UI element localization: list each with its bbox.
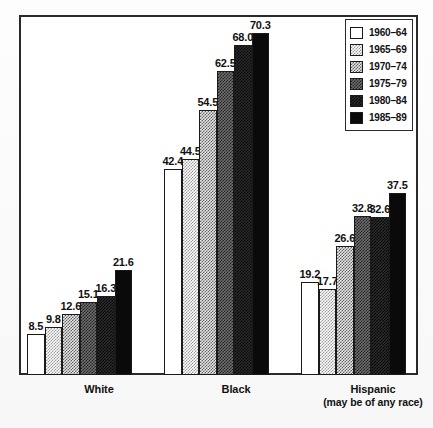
bar-value-label: 54.5 xyxy=(197,96,218,108)
bar-slot: 19.2 xyxy=(301,17,319,375)
legend-swatch-icon xyxy=(350,95,363,107)
bar-white-1970-74: 12.6 xyxy=(62,314,80,375)
bar-slot: 16.3 xyxy=(97,17,115,375)
bar-group-bars: 42.444.554.562.568.070.3 xyxy=(164,17,269,375)
bar-value-label: 26.6 xyxy=(334,232,355,244)
category-label-white: White xyxy=(29,383,169,396)
bar-slot: 68.0 xyxy=(234,17,252,375)
legend-item-label: 1985–89 xyxy=(369,112,407,123)
legend-item-1980-84: 1980–84 xyxy=(350,92,409,109)
legend-swatch-icon xyxy=(350,44,363,56)
bar-value-label: 12.6 xyxy=(60,300,81,312)
legend-item-label: 1965–69 xyxy=(369,44,407,55)
bar-value-label: 42.4 xyxy=(162,155,183,167)
category-label-text: Hispanic xyxy=(303,383,433,396)
bar-value-label: 16.3 xyxy=(95,282,116,294)
legend-item-1975-79: 1975–79 xyxy=(350,75,409,92)
bar-value-label: 17.7 xyxy=(317,275,338,287)
bar-slot: 12.6 xyxy=(62,17,80,375)
bar-slot: 15.1 xyxy=(80,17,98,375)
legend-item-1965-69: 1965–69 xyxy=(350,41,409,58)
bar-slot: 21.6 xyxy=(115,17,133,375)
bar-value-label: 32.6 xyxy=(369,203,390,215)
legend-swatch-icon xyxy=(350,27,363,39)
bar-black-1960-64: 42.4 xyxy=(164,169,182,375)
legend-item-1970-74: 1970–74 xyxy=(350,58,409,75)
bar-value-label: 21.6 xyxy=(113,256,134,268)
bar-white-1965-69: 9.8 xyxy=(45,327,63,375)
bar-value-label: 8.5 xyxy=(28,320,43,332)
bar-black-1985-89: 70.3 xyxy=(252,33,270,375)
bar-hispanic-1970-74: 26.6 xyxy=(336,246,354,375)
legend-item-label: 1975–79 xyxy=(369,78,407,89)
bar-value-label: 9.8 xyxy=(46,313,61,325)
bar-value-label: 70.3 xyxy=(250,19,271,31)
bar-slot: 54.5 xyxy=(199,17,217,375)
bar-slot: 17.7 xyxy=(319,17,337,375)
bar-slot: 44.5 xyxy=(182,17,200,375)
legend-swatch-icon xyxy=(350,61,363,73)
category-label-black: Black xyxy=(166,383,306,396)
bar-white-1960-64: 8.5 xyxy=(27,334,45,375)
chart-legend: 1960–641965–691970–741975–791980–841985–… xyxy=(345,19,413,131)
legend-item-label: 1980–84 xyxy=(369,95,407,106)
bar-value-label: 37.5 xyxy=(387,179,408,191)
bar-black-1965-69: 44.5 xyxy=(182,159,200,375)
category-sublabel-text: (may be of any race) xyxy=(303,396,433,409)
bar-value-label: 44.5 xyxy=(180,145,201,157)
bar-group-bars: 8.59.812.615.116.321.6 xyxy=(27,17,132,375)
bar-white-1980-84: 16.3 xyxy=(97,296,115,375)
bar-slot: 9.8 xyxy=(45,17,63,375)
category-label-text: White xyxy=(29,383,169,396)
legend-item-1985-89: 1985–89 xyxy=(350,109,409,126)
legend-item-label: 1970–74 xyxy=(369,61,407,72)
bar-white-1985-89: 21.6 xyxy=(115,270,133,375)
category-label-text: Black xyxy=(166,383,306,396)
legend-item-1960-64: 1960–64 xyxy=(350,24,409,41)
bar-hispanic-1985-89: 37.5 xyxy=(389,193,407,375)
bar-black-1975-79: 62.5 xyxy=(217,71,235,375)
legend-swatch-icon xyxy=(350,78,363,90)
bar-black-1970-74: 54.5 xyxy=(199,110,217,375)
bar-hispanic-1960-64: 19.2 xyxy=(301,282,319,375)
bar-black-1980-84: 68.0 xyxy=(234,45,252,375)
bar-value-label: 62.5 xyxy=(215,57,236,69)
bar-slot: 70.3 xyxy=(252,17,270,375)
bar-value-label: 68.0 xyxy=(232,31,253,43)
bar-hispanic-1975-79: 32.8 xyxy=(354,216,372,375)
bar-slot: 8.5 xyxy=(27,17,45,375)
category-label-hispanic: Hispanic(may be of any race) xyxy=(303,383,433,409)
bar-hispanic-1965-69: 17.7 xyxy=(319,289,337,375)
bar-slot: 62.5 xyxy=(217,17,235,375)
bar-slot: 42.4 xyxy=(164,17,182,375)
legend-item-label: 1960–64 xyxy=(369,27,407,38)
legend-swatch-icon xyxy=(350,112,363,124)
bar-hispanic-1980-84: 32.6 xyxy=(371,217,389,375)
bar-white-1975-79: 15.1 xyxy=(80,302,98,375)
